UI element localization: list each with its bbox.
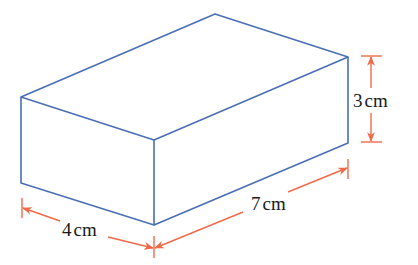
top-face (21, 14, 348, 140)
width-label: 4cm (62, 219, 97, 240)
left-face-edges (21, 97, 154, 225)
length-label: 7cm (251, 193, 286, 214)
height-label: 3cm (353, 90, 388, 111)
width-arrow-left (23, 208, 60, 221)
width-arrow-right (108, 237, 153, 248)
length-arrow-left (155, 212, 243, 248)
cuboid (21, 14, 348, 225)
cuboid-diagram: 3cm 4cm 7cm (0, 0, 418, 265)
length-arrow-right (288, 168, 347, 192)
